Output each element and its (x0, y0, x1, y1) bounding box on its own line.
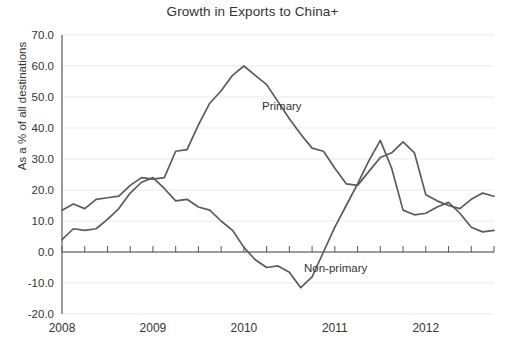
y-tick-label: 20.0 (32, 184, 54, 196)
x-tick-label: 2010 (231, 321, 258, 335)
y-tick-label: 70.0 (32, 29, 54, 41)
y-tick-label: 40.0 (32, 122, 54, 134)
axis-lines (62, 35, 494, 314)
x-tick-label: 2011 (322, 321, 348, 335)
series-annotation: Non-primary (304, 262, 368, 274)
x-tick-label: 2008 (49, 321, 76, 335)
y-tick-label: 50.0 (32, 91, 54, 103)
x-tick-label: 2012 (412, 321, 439, 335)
y-tick-label: 10.0 (32, 215, 54, 227)
y-tick-label: -10.0 (28, 277, 54, 289)
y-tick-label: 0.0 (38, 246, 54, 258)
chart-container: Growth in Exports to China+ As a % of al… (0, 0, 505, 344)
y-axis-ticks: 70.060.050.040.030.020.010.00.0-10.0-20.… (28, 29, 54, 320)
y-tick-label: 30.0 (32, 153, 54, 165)
x-tick-label: 2009 (140, 321, 167, 335)
y-tick-label: 60.0 (32, 60, 54, 72)
series-annotations: PrimaryNon-primary (262, 100, 368, 274)
y-tick-label: -20.0 (28, 308, 54, 320)
series-line-primary (62, 66, 494, 210)
series-line-non-primary (62, 140, 494, 287)
series-annotation: Primary (262, 100, 302, 112)
plot-area: 70.060.050.040.030.020.010.00.0-10.0-20.… (0, 0, 505, 344)
x-axis-ticks: 20082009201020112012 (49, 246, 494, 335)
gridlines (62, 35, 494, 314)
